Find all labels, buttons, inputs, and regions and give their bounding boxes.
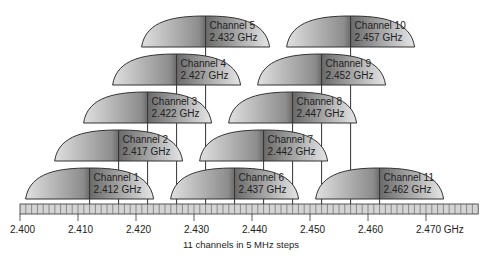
axis-tick-label: 2.440	[242, 224, 267, 235]
channel-frequency: 2.437 GHz	[239, 184, 287, 195]
axis-tick-label: 2.430	[184, 224, 209, 235]
wifi-channel-diagram: Channel 52.432 GHzChannel 102.457 GHzCha…	[0, 0, 492, 260]
channel-name: Channel 5	[210, 20, 256, 31]
channel-domes: Channel 52.432 GHzChannel 102.457 GHzCha…	[26, 16, 444, 204]
channel-frequency: 2.417 GHz	[123, 146, 171, 157]
axis-bar	[20, 204, 478, 214]
channel-name: Channel 3	[152, 96, 198, 107]
channel-frequency: 2.422 GHz	[152, 108, 200, 119]
diagram-caption: 11 channels in 5 MHz steps	[183, 239, 299, 250]
channel-frequency: 2.427 GHz	[181, 70, 229, 81]
channel-frequency: 2.457 GHz	[355, 32, 403, 43]
channel-frequency: 2.412 GHz	[94, 184, 142, 195]
axis-tick-label: 2.460	[358, 224, 383, 235]
axis-tick-label: 2.420	[126, 224, 151, 235]
channel-name: Channel 2	[123, 134, 169, 145]
channel-frequency: 2.447 GHz	[297, 108, 345, 119]
axis-tick-label: 2.450	[300, 224, 325, 235]
channel-frequency: 2.462 GHz	[384, 184, 432, 195]
channel-name: Channel 6	[239, 172, 285, 183]
frequency-axis: 2.4002.4102.4202.4302.4402.4502.4602.470…	[10, 204, 478, 235]
axis-tick-label: 2.470 GHz	[416, 224, 464, 235]
channel-name: Channel 8	[297, 96, 343, 107]
channel-1-dome: Channel 12.412 GHz	[26, 168, 154, 204]
channel-6-dome: Channel 62.437 GHz	[171, 168, 299, 204]
channel-name: Channel 10	[355, 20, 407, 31]
channel-name: Channel 7	[268, 134, 314, 145]
channel-name: Channel 1	[94, 172, 140, 183]
channel-frequency: 2.432 GHz	[210, 32, 258, 43]
channel-name: Channel 11	[384, 172, 435, 183]
axis-tick-label: 2.410	[68, 224, 93, 235]
channel-name: Channel 9	[326, 58, 372, 69]
axis-tick-label: 2.400	[10, 224, 35, 235]
channel-frequency: 2.452 GHz	[326, 70, 374, 81]
channel-name: Channel 4	[181, 58, 227, 69]
channel-11-dome: Channel 112.462 GHz	[316, 168, 444, 204]
channel-frequency: 2.442 GHz	[268, 146, 316, 157]
